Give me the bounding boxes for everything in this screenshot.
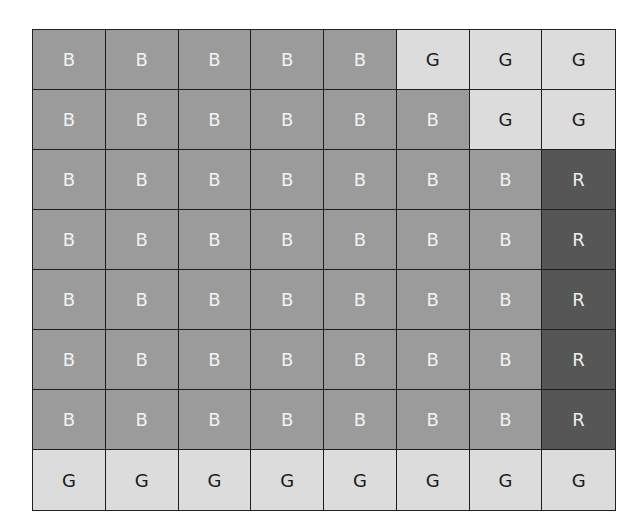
grid-cell: B xyxy=(179,90,252,150)
grid-cell: G xyxy=(106,450,179,510)
grid-cell: B xyxy=(33,270,106,330)
grid-cell: G xyxy=(397,30,470,90)
grid-cell: B xyxy=(324,150,397,210)
grid-cell: B xyxy=(179,30,252,90)
grid-cell: G xyxy=(470,450,543,510)
grid-cell: B xyxy=(324,270,397,330)
grid-cell: G xyxy=(33,450,106,510)
grid-cell: B xyxy=(251,30,324,90)
grid-cell: R xyxy=(542,390,615,450)
grid-cell: B xyxy=(397,390,470,450)
grid-cell: B xyxy=(397,90,470,150)
grid-cell: B xyxy=(324,30,397,90)
grid-cell: B xyxy=(33,90,106,150)
grid-cell: G xyxy=(324,450,397,510)
grid-cell: G xyxy=(470,90,543,150)
grid-cell: B xyxy=(106,270,179,330)
grid-cell: B xyxy=(397,330,470,390)
grid-cell: R xyxy=(542,150,615,210)
grid-cell: B xyxy=(251,270,324,330)
grid-cell: B xyxy=(251,210,324,270)
grid-cell: G xyxy=(542,450,615,510)
grid-cell: B xyxy=(179,210,252,270)
grid-cell: B xyxy=(33,330,106,390)
grid-cell: B xyxy=(251,330,324,390)
grid-cell: B xyxy=(251,390,324,450)
grid-cell: B xyxy=(397,150,470,210)
color-grid: BBBBBGGGBBBBBBGGBBBBBBBRBBBBBBBRBBBBBBBR… xyxy=(32,29,616,511)
grid-cell: B xyxy=(33,150,106,210)
grid-cell: R xyxy=(542,330,615,390)
grid-cell: B xyxy=(106,30,179,90)
grid-cell: G xyxy=(251,450,324,510)
grid-cell: G xyxy=(397,450,470,510)
grid-cell: B xyxy=(470,390,543,450)
grid-cell: B xyxy=(324,90,397,150)
grid-cell: B xyxy=(470,150,543,210)
grid-cell: B xyxy=(179,270,252,330)
grid-cell: B xyxy=(33,210,106,270)
grid-cell: B xyxy=(251,90,324,150)
grid-cell: B xyxy=(251,150,324,210)
grid-cell: B xyxy=(106,90,179,150)
grid-cell: B xyxy=(106,210,179,270)
grid-cell: R xyxy=(542,210,615,270)
grid-cell: B xyxy=(106,330,179,390)
grid-cell: G xyxy=(179,450,252,510)
grid-cell: B xyxy=(33,390,106,450)
grid-cell: B xyxy=(470,210,543,270)
grid-cell: G xyxy=(470,30,543,90)
grid-cell: G xyxy=(542,90,615,150)
grid-cell: B xyxy=(179,390,252,450)
grid-cell: B xyxy=(397,270,470,330)
grid-cell: B xyxy=(324,210,397,270)
grid-cell: R xyxy=(542,270,615,330)
grid-cell: B xyxy=(179,330,252,390)
grid-cell: B xyxy=(179,150,252,210)
grid-cell: B xyxy=(324,390,397,450)
grid-cell: B xyxy=(33,30,106,90)
grid-cell: B xyxy=(106,150,179,210)
grid-cell: B xyxy=(470,330,543,390)
grid-cell: G xyxy=(542,30,615,90)
grid-cell: B xyxy=(397,210,470,270)
grid-cell: B xyxy=(470,270,543,330)
grid-cell: B xyxy=(106,390,179,450)
grid-cell: B xyxy=(324,330,397,390)
